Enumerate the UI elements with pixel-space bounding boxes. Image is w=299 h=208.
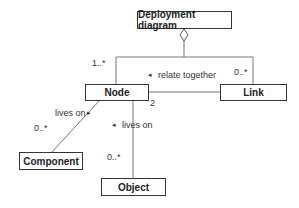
deployment-diagram-box: Deployment diagram bbox=[137, 11, 232, 29]
node-label: Node bbox=[105, 87, 130, 98]
left-arrow-icon: ◂ bbox=[112, 121, 116, 129]
object-lives-on-label: lives on bbox=[122, 120, 153, 130]
right-arrow-icon: ▸ bbox=[87, 109, 91, 117]
link-box: Link bbox=[220, 84, 287, 101]
component-lives-on-label: lives on bbox=[55, 108, 86, 118]
node-box: Node bbox=[85, 84, 149, 101]
component-label: Component bbox=[23, 156, 79, 167]
component-multiplicity: 0..* bbox=[34, 123, 48, 133]
deployment-label: Deployment diagram bbox=[138, 9, 231, 31]
link-multiplicity: 0..* bbox=[234, 67, 248, 77]
object-label: Object bbox=[118, 182, 149, 193]
left-arrow-icon: ◂ bbox=[148, 71, 152, 79]
object-box: Object bbox=[101, 178, 166, 196]
relate-together-label: relate together bbox=[158, 70, 216, 80]
component-box: Component bbox=[19, 152, 83, 170]
node-link-multiplicity: 2 bbox=[150, 98, 155, 108]
link-label: Link bbox=[243, 87, 264, 98]
node-multiplicity: 1..* bbox=[92, 58, 106, 68]
object-multiplicity: 0..* bbox=[107, 152, 121, 162]
